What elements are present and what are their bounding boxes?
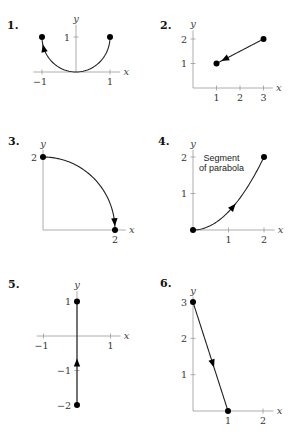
y-tick-label: 1 [181, 369, 187, 380]
endpoint-dot [74, 402, 80, 408]
direction-arrow [221, 55, 230, 62]
x-tick-label: −1 [33, 76, 47, 87]
y-axis-label: y [39, 138, 46, 149]
x-tick-label: 1 [213, 92, 219, 103]
x-tick-label: 2 [237, 92, 243, 103]
y-tick-label: 1 [181, 58, 187, 69]
panel-5: 5.xy−111−1−2 [8, 278, 130, 411]
x-axis-label: x [123, 66, 129, 77]
panel-number: 1. [7, 19, 18, 32]
x-tick-label: 2 [112, 234, 118, 245]
x-axis-label: x [277, 405, 283, 416]
direction-arrow [41, 44, 47, 53]
panel-3: 3.xy22 [8, 135, 135, 245]
endpoint-dot [74, 299, 80, 305]
y-axis-label: y [73, 279, 80, 290]
x-tick-label: 1 [225, 415, 231, 426]
curve-path [193, 302, 228, 411]
endpoint-dot [214, 61, 220, 67]
y-axis-label: y [72, 13, 79, 24]
y-tick-label: 2 [181, 152, 187, 163]
y-tick-label: 1 [64, 32, 70, 43]
x-tick-label: 2 [260, 415, 266, 426]
y-tick-label: 1 [181, 188, 187, 199]
endpoint-dot [190, 299, 196, 305]
endpoint-dot [225, 408, 231, 414]
direction-arrow [74, 358, 80, 366]
panel-number: 4. [158, 135, 169, 148]
x-axis-label: x [124, 330, 130, 341]
endpoint-dot [39, 34, 45, 40]
x-axis-label: x [129, 224, 135, 235]
y-tick-label: 2 [181, 333, 187, 344]
y-axis-label: y [189, 138, 196, 149]
x-tick-label: 2 [261, 234, 267, 245]
y-tick-label: 3 [181, 297, 187, 308]
y-tick-label: 2 [181, 34, 187, 45]
x-tick-label: 1 [107, 340, 113, 351]
panel-number: 2. [160, 19, 171, 32]
x-tick-label: 1 [225, 234, 231, 245]
parabola-annotation: Segment [203, 153, 240, 163]
panel-2: 2.xy12312 [160, 18, 282, 103]
y-tick-label: −2 [57, 400, 71, 411]
y-axis-label: y [189, 285, 196, 296]
y-tick-label: 2 [31, 152, 37, 163]
x-tick-label: −1 [34, 340, 48, 351]
y-axis-label: y [189, 18, 196, 29]
panel-1: 1.xy−111 [7, 13, 129, 87]
endpoint-dot [261, 154, 267, 160]
endpoint-dot [40, 154, 46, 160]
endpoint-dot [107, 34, 113, 40]
panel-number: 6. [160, 277, 171, 290]
endpoint-dot [190, 227, 196, 233]
x-axis-label: x [276, 82, 282, 93]
panel-number: 5. [8, 278, 19, 291]
x-axis-label: x [278, 224, 284, 235]
panel-number: 3. [8, 135, 19, 148]
parabola-annotation: of parabola [199, 163, 244, 173]
endpoint-dot [112, 227, 118, 233]
direction-arrow [209, 359, 215, 368]
y-tick-label: −1 [57, 365, 71, 376]
endpoint-dot [261, 36, 267, 42]
y-tick-label: 1 [65, 296, 71, 307]
x-tick-label: 1 [107, 76, 113, 87]
direction-arrow [111, 218, 117, 226]
panel-6: 6.xy12123 [160, 277, 283, 426]
figure: 1.xy−1112.xy123123.xy224.xy1212Segmentof… [0, 0, 291, 442]
panel-4: 4.xy1212Segmentof parabola [158, 135, 284, 245]
x-tick-label: 3 [260, 92, 266, 103]
curve-path [43, 157, 115, 230]
